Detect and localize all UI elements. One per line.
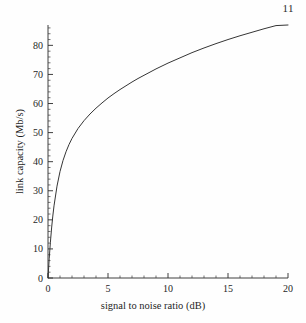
y-tick-label: 60 (33, 98, 43, 109)
chart-plot-area: 01020304050607080 05101520 (0, 0, 306, 323)
y-tick-label: 20 (33, 214, 43, 225)
x-tick-label: 15 (223, 283, 233, 294)
capacity-curve (48, 25, 288, 278)
y-axis-tick-labels: 01020304050607080 (33, 40, 43, 284)
x-tick-label: 20 (283, 283, 293, 294)
chart-figure: 01020304050607080 05101520 link capacity… (0, 0, 306, 323)
x-tick-label: 5 (106, 283, 111, 294)
y-tick-label: 80 (33, 40, 43, 51)
x-axis-title: signal to noise ratio (dB) (0, 300, 306, 311)
x-tick-label: 0 (46, 283, 51, 294)
y-axis-title-wrap: link capacity (Mb/s) (0, 0, 24, 300)
y-tick-label: 0 (38, 273, 43, 284)
y-tick-label: 70 (33, 69, 43, 80)
y-tick-label: 10 (33, 243, 43, 254)
y-tick-label: 40 (33, 156, 43, 167)
document-page: 11 01020304050607080 05101520 link capac… (0, 0, 306, 323)
y-tick-label: 30 (33, 185, 43, 196)
y-tick-label: 50 (33, 127, 43, 138)
y-axis-title: link capacity (Mb/s) (14, 77, 25, 227)
x-axis-tick-labels: 05101520 (46, 283, 294, 294)
x-tick-label: 10 (163, 283, 173, 294)
